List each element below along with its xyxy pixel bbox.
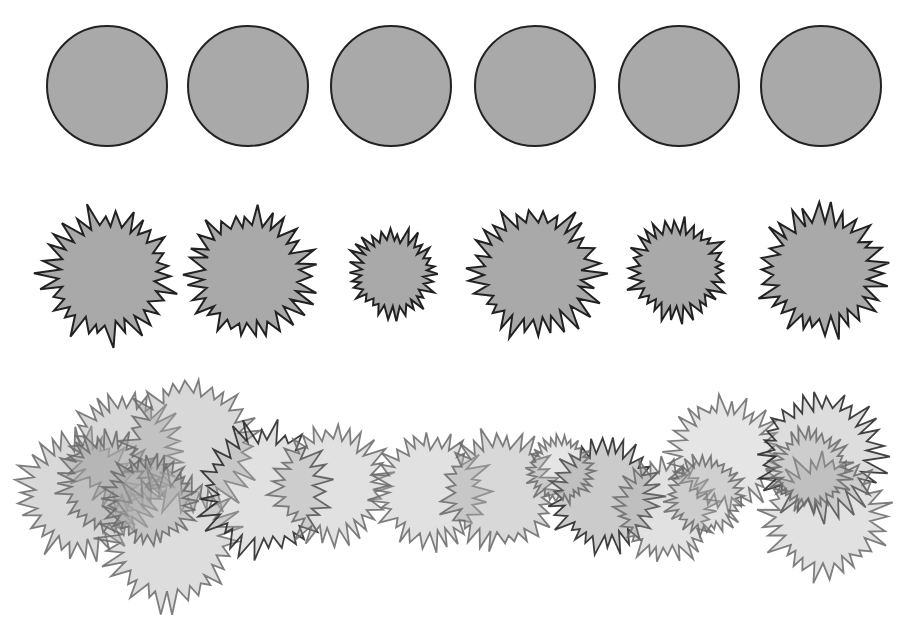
circle-shape: [761, 26, 881, 146]
circle-shape: [47, 26, 167, 146]
spiky-blob-shape: [350, 229, 438, 322]
circle-shape: [619, 26, 739, 146]
circle-shape: [475, 26, 595, 146]
spiky-blob-shape: [466, 210, 608, 338]
illustration-canvas: [0, 0, 913, 617]
row-overlapping-blobs: [15, 380, 893, 615]
circle-shape: [188, 26, 308, 146]
row-circles: [47, 26, 881, 146]
spiky-blob-shape: [759, 202, 890, 340]
spiky-blob-shape: [627, 217, 724, 325]
row-spiky-blobs: [34, 202, 889, 348]
spiky-blob-shape: [34, 204, 177, 348]
spiky-blob-shape: [183, 205, 317, 336]
circle-shape: [331, 26, 451, 146]
